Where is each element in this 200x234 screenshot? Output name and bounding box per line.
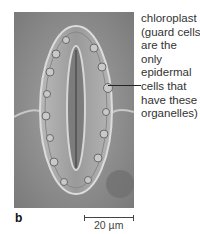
chloroplast-callout: chloroplast (guard cells are the only ep…	[141, 12, 200, 121]
scale-bar-label: 20 µm	[94, 219, 123, 231]
panel-label: b	[15, 211, 22, 225]
stomate-micrograph	[14, 12, 134, 208]
callout-pointer-line	[108, 85, 141, 86]
